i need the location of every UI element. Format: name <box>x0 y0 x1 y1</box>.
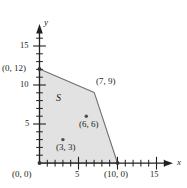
vertex-dot-0-12 <box>38 67 42 71</box>
x-tick-label-15: 15 <box>150 170 159 179</box>
vertex-label-0-12: (0, 12) <box>2 64 26 73</box>
y-tick-label-5: 5 <box>25 119 29 128</box>
point-label-6-6: (6, 6) <box>79 120 99 129</box>
y-axis-label: y <box>44 18 48 27</box>
vertex-label-0-0: (0, 0) <box>12 170 32 179</box>
region-label-s: S <box>56 93 61 103</box>
y-tick-label-10: 10 <box>20 80 29 89</box>
point-label-3-3: (3, 3) <box>56 143 76 152</box>
vertex-dot-10-0 <box>116 161 120 165</box>
x-axis-label: x <box>177 158 181 167</box>
vertex-label-10-0: (10, 0) <box>104 170 128 179</box>
data-point-3-3 <box>61 138 64 141</box>
coordinate-plane-figure: y x 15 10 5 5 15 (0, 12) (7, 9) (0, 0) (… <box>0 0 187 188</box>
y-tick-label-15: 15 <box>20 41 29 50</box>
data-point-6-6 <box>85 115 88 118</box>
vertex-dot-origin <box>38 161 42 165</box>
x-tick-label-5: 5 <box>75 170 79 179</box>
plot-canvas <box>0 0 187 188</box>
y-axis-arrow-icon <box>36 24 43 34</box>
vertex-label-7-9: (7, 9) <box>96 77 116 86</box>
x-axis-arrow-icon <box>164 160 173 167</box>
